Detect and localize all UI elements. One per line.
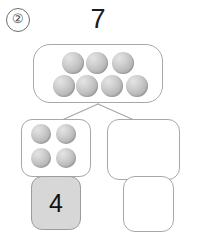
- counter-dot: [112, 52, 134, 74]
- connector-left: [62, 104, 98, 120]
- counter-dot: [31, 148, 51, 168]
- left-part-answer-value: 4: [32, 177, 80, 229]
- whole-counters-box: [33, 44, 163, 103]
- problem-number-badge: ②: [6, 8, 30, 32]
- counter-dot: [56, 148, 76, 168]
- counter-dot: [56, 124, 76, 144]
- right-part-counters-box[interactable]: [107, 119, 180, 180]
- counter-dot: [62, 52, 84, 74]
- counter-dot: [53, 75, 75, 97]
- counter-dot: [76, 75, 98, 97]
- counter-dot: [86, 52, 108, 74]
- left-part-answer-box[interactable]: 4: [31, 176, 81, 230]
- counter-dot: [126, 75, 148, 97]
- connector-right: [98, 104, 134, 120]
- left-part-counters-box: [21, 119, 91, 177]
- number-bond-worksheet-item: ② 7 4: [0, 0, 197, 238]
- total-number-label: 7: [76, 4, 120, 35]
- counter-dot: [101, 75, 123, 97]
- counter-dot: [31, 124, 51, 144]
- right-part-answer-box[interactable]: [123, 176, 174, 232]
- right-part-answer-value: [124, 177, 173, 231]
